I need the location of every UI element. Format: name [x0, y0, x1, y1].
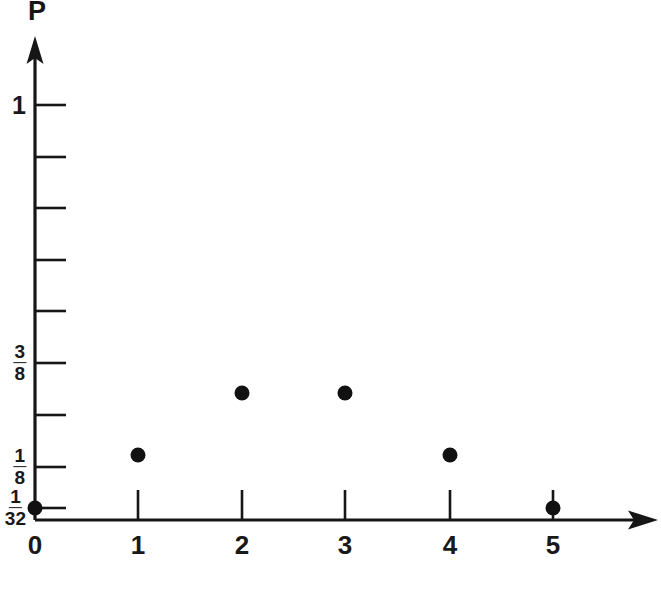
fraction: 18: [13, 446, 26, 488]
fraction-numerator: 1: [13, 446, 26, 467]
fraction: 38: [13, 342, 26, 384]
data-point: [131, 448, 146, 463]
plot-canvas: [0, 0, 661, 593]
x-axis-tick-label: 3: [338, 532, 352, 558]
probability-scatter-plot: P 13818132 012345: [0, 0, 661, 593]
y-axis-tick-label-fraction: 18: [13, 446, 26, 488]
x-axis-tick-label: 2: [235, 532, 249, 558]
data-point-markers: [28, 386, 561, 516]
y-axis-tick-label: 1: [12, 93, 26, 118]
y-axis-tick-label-fraction: 38: [13, 342, 26, 384]
data-point: [443, 448, 458, 463]
fraction-denominator: 32: [5, 509, 26, 529]
fraction-denominator: 8: [14, 364, 25, 384]
fraction-denominator: 8: [14, 468, 25, 488]
data-point: [235, 386, 250, 401]
y-axis-tick-label-fraction: 132: [5, 487, 26, 529]
axis-lines: [27, 36, 659, 530]
data-point: [28, 501, 43, 516]
fraction-numerator: 1: [9, 487, 22, 508]
y-axis-tick-marks: [35, 105, 66, 508]
x-axis-tick-label: 1: [131, 532, 145, 558]
fraction-numerator: 3: [13, 342, 26, 363]
data-point: [338, 386, 353, 401]
fraction: 132: [5, 487, 26, 529]
x-axis-tick-label: 0: [28, 532, 42, 558]
x-axis-tick-label: 5: [546, 532, 560, 558]
data-point: [546, 501, 561, 516]
x-axis-tick-marks: [138, 490, 553, 520]
x-axis-tick-label: 4: [443, 532, 457, 558]
